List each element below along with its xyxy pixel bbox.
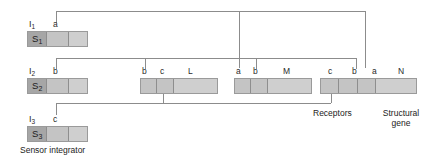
sensor-integrator-block-1: S1 bbox=[27, 31, 88, 47]
receptor-cell-bcl-c bbox=[157, 79, 175, 93]
integrator-2-label: I2 bbox=[29, 67, 35, 76]
caption-sensor-integrator: Sensor integrator bbox=[20, 146, 85, 155]
tier2-horizontal-connector bbox=[56, 58, 356, 59]
structural-gene-cell-M bbox=[268, 79, 311, 93]
gene-label-abm-M: M bbox=[283, 67, 290, 76]
receptor-cell-cban-c bbox=[321, 79, 339, 93]
tier1-drop-to-cban-a bbox=[365, 11, 366, 68]
sensor-cell-s3: S3 bbox=[28, 127, 47, 141]
sensor-code-s3: S3 bbox=[32, 129, 42, 139]
site-label-abm-a: a bbox=[236, 67, 241, 76]
sensor-cell-s1: S1 bbox=[28, 32, 47, 46]
site-label-bcl-c: c bbox=[160, 67, 164, 76]
receptor-cell-i1-1 bbox=[47, 32, 68, 46]
receptor-cell-cban-a bbox=[358, 79, 376, 93]
sensor-cell-s2: S2 bbox=[28, 79, 47, 93]
site-label-abm-b: b bbox=[253, 67, 258, 76]
receptor-cell-i2-1 bbox=[47, 79, 68, 93]
tier3-riser-to-bcl-c bbox=[163, 94, 164, 103]
sensor-integrator-block-2: S2 bbox=[27, 78, 88, 94]
caption-structural-gene: Structural gene bbox=[372, 108, 430, 128]
structural-gene-cell-N bbox=[376, 79, 416, 93]
site-label-cban-b: b bbox=[352, 67, 357, 76]
sensor-code-s1: S1 bbox=[32, 34, 42, 44]
tier1-drop-to-abm-a bbox=[239, 11, 240, 68]
caption-structural-gene-line1: Structural bbox=[383, 108, 419, 118]
tier3-riser-to-cban-c bbox=[331, 94, 332, 103]
gene-block-L bbox=[140, 78, 218, 94]
gene-regulation-diagram: I1 a S1 I2 b S2 b c L a b M c b a N bbox=[0, 0, 443, 162]
gene-block-N bbox=[320, 78, 417, 94]
site-label-i2-b: b bbox=[53, 67, 58, 76]
structural-gene-cell-L bbox=[174, 79, 217, 93]
receptor-cell-i1-2 bbox=[69, 32, 87, 46]
integrator-3-label: I3 bbox=[29, 115, 35, 124]
tier1-horizontal-connector bbox=[56, 11, 366, 12]
caption-structural-gene-line2: gene bbox=[392, 118, 411, 128]
receptor-cell-abm-a bbox=[235, 79, 251, 93]
receptor-cell-i2-2 bbox=[69, 79, 87, 93]
site-label-cban-a: a bbox=[372, 67, 377, 76]
receptor-cell-abm-b bbox=[251, 79, 269, 93]
site-label-cban-c: c bbox=[328, 67, 332, 76]
tier3-horizontal-connector bbox=[56, 103, 331, 104]
receptor-cell-i3-1 bbox=[47, 127, 68, 141]
receptor-cell-cban-b bbox=[339, 79, 359, 93]
site-label-i1-a: a bbox=[53, 20, 58, 29]
sensor-integrator-block-3: S3 bbox=[27, 126, 88, 142]
gene-label-bcl-L: L bbox=[188, 67, 193, 76]
site-label-i3-c: c bbox=[53, 115, 57, 124]
caption-receptors: Receptors bbox=[313, 109, 352, 118]
integrator-1-label: I1 bbox=[29, 20, 35, 29]
receptor-cell-bcl-b bbox=[141, 79, 157, 93]
gene-block-M bbox=[234, 78, 312, 94]
gene-label-cban-N: N bbox=[398, 67, 404, 76]
site-label-bcl-b: b bbox=[142, 67, 147, 76]
receptor-cell-i3-2 bbox=[69, 127, 87, 141]
sensor-code-s2: S2 bbox=[32, 81, 42, 91]
